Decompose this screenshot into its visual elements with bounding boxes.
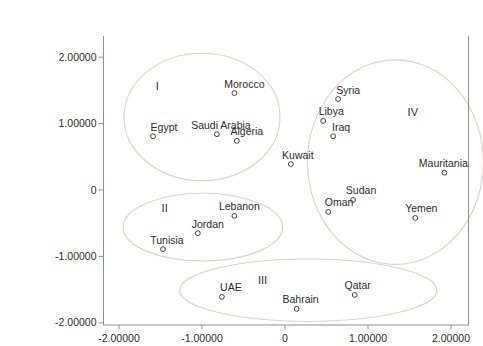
point-marker-syria	[336, 97, 341, 102]
point-marker-tunisia	[161, 247, 166, 252]
point-marker-qatar	[352, 293, 357, 298]
point-label-algeria: Algeria	[231, 125, 264, 137]
point-marker-mauritania	[442, 170, 447, 175]
y-tick-label: 1.00000	[59, 117, 97, 129]
x-tick-label: -1.00000	[181, 332, 223, 344]
point-marker-jordan	[195, 231, 200, 236]
point-marker-libya	[321, 119, 326, 124]
point-label-yemen: Yemen	[405, 202, 437, 214]
cluster-label-iii: III	[258, 274, 267, 286]
point-label-kuwait: Kuwait	[282, 149, 314, 161]
point-label-tunisia: Tunisia	[150, 234, 184, 246]
point-label-oman: Oman	[325, 196, 354, 208]
point-label-libya: Libya	[319, 105, 344, 117]
point-marker-lebanon	[232, 213, 237, 218]
point-label-morocco: Morocco	[224, 78, 264, 90]
y-tick-label: -1.00000	[55, 250, 97, 262]
point-label-egypt: Egypt	[151, 121, 178, 133]
cluster-label-i: I	[156, 80, 159, 92]
x-tick-label: 1.00000	[349, 332, 387, 344]
y-tick-label: 0	[91, 184, 97, 196]
point-marker-bahrain	[294, 306, 299, 311]
scatter-plot-canvas: 2.000001.000000-1.00000-2.00000-2.00000-…	[40, 16, 483, 346]
point-marker-yemen	[413, 215, 418, 220]
cluster-label-iv: IV	[408, 106, 419, 118]
cluster-scatter-plot-figure: 2.000001.000000-1.00000-2.00000-2.00000-…	[40, 16, 483, 346]
point-marker-algeria	[234, 138, 239, 143]
point-marker-egypt	[151, 134, 156, 139]
point-marker-saudi-arabia	[215, 132, 220, 137]
point-label-bahrain: Bahrain	[283, 293, 319, 305]
point-marker-oman	[326, 210, 331, 215]
point-marker-kuwait	[288, 162, 293, 167]
point-marker-morocco	[232, 91, 237, 96]
point-label-lebanon: Lebanon	[219, 200, 260, 212]
x-tick-label: 0	[282, 332, 288, 344]
point-marker-iraq	[331, 134, 336, 139]
point-label-iraq: Iraq	[332, 121, 350, 133]
point-label-qatar: Qatar	[345, 279, 372, 291]
y-tick-label: 2.00000	[59, 51, 97, 63]
cluster-label-ii: II	[162, 202, 168, 214]
x-tick-label: -2.00000	[98, 332, 140, 344]
point-label-uae: UAE	[220, 281, 242, 293]
point-label-syria: Syria	[336, 84, 360, 96]
y-tick-label: -2.00000	[55, 316, 97, 328]
x-tick-label: 2.00000	[432, 332, 470, 344]
point-label-sudan: Sudan	[346, 184, 377, 196]
point-marker-uae	[220, 295, 225, 300]
point-label-jordan: Jordan	[192, 218, 224, 230]
point-label-mauritania: Mauritania	[419, 157, 468, 169]
plot-background	[40, 16, 483, 346]
